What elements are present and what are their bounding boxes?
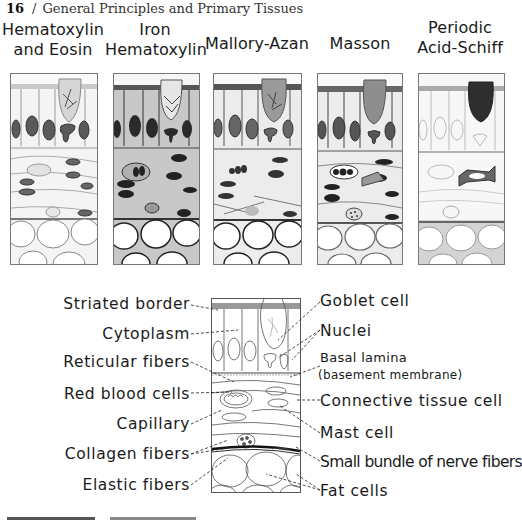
label-capillary: Capillary — [10, 415, 190, 433]
label-basal-lamina: Basal lamina — [320, 349, 407, 367]
label-fat-cells: Fat cells — [320, 482, 388, 500]
label-basement-membrane: (basement membrane) — [318, 366, 463, 384]
label-reticular-fibers: Reticular fibers — [10, 353, 190, 371]
label-elastic-fibers: Elastic fibers — [10, 476, 190, 494]
label-connective-tissue-cell: Connective tissue cell — [320, 392, 503, 410]
label-red-blood-cells: Red blood cells — [10, 385, 190, 403]
label-collagen-fibers: Collagen fibers — [10, 445, 190, 463]
label-nuclei: Nuclei — [320, 322, 372, 340]
label-goblet-cell: Goblet cell — [320, 292, 409, 310]
label-cytoplasm: Cytoplasm — [10, 325, 190, 343]
label-striated-border: Striated border — [10, 295, 190, 313]
label-mast-cell: Mast cell — [320, 424, 394, 442]
label-nerve-fibers: Small bundle of nerve fibers — [320, 453, 522, 471]
